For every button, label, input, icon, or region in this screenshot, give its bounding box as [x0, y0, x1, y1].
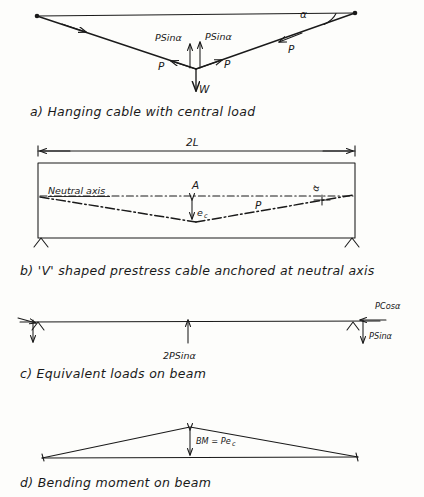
tension-left-label: P — [158, 60, 165, 72]
span-dimension-label: 2L — [186, 136, 199, 148]
bm-value-subscript: c — [232, 440, 236, 448]
figure-d-bending-moment: BM = Pe c d) Bending moment on beam — [20, 427, 358, 490]
engineering-sketch: PSinα PSinα P P P W α a) Hanging cable w… — [0, 0, 424, 497]
prestress-cable-right — [196, 195, 353, 222]
central-load-label: W — [199, 83, 210, 95]
point-a-label: A — [191, 179, 199, 191]
neutral-axis-label: Neutral axis — [48, 185, 105, 196]
vertical-right-label: PSinα — [369, 331, 393, 341]
psin-right-label: PSinα — [205, 31, 232, 42]
caption-a: a) Hanging cable with central load — [30, 104, 255, 119]
caption-b: b) 'V' shaped prestress cable anchored a… — [20, 263, 375, 278]
cable-force-label: P — [255, 199, 262, 211]
support-right-c — [347, 322, 359, 330]
tension-right-label: P — [224, 58, 231, 70]
bm-baseline — [42, 457, 358, 458]
node-left-force-arrow — [171, 61, 196, 69]
eccentricity-subscript: c — [204, 212, 208, 220]
angle-alpha-label-b: α — [309, 183, 321, 192]
caption-d: d) Bending moment on beam — [20, 475, 211, 490]
cable-left-direction-arrow — [62, 24, 86, 32]
support-right — [345, 238, 359, 247]
central-uplift-label: 2PSinα — [163, 350, 196, 361]
eccentricity-label: e — [197, 207, 203, 218]
support-left-c — [32, 322, 44, 330]
figure-b-v-cable-beam: 2L Neutral axis A e c P α b — [20, 136, 375, 278]
angle-alpha-label-a: α — [300, 8, 307, 20]
beam-line-c — [20, 321, 380, 322]
prestress-cable-left — [40, 197, 196, 222]
tension-side-label: P — [288, 43, 295, 55]
figure-a-hanging-cable: PSinα PSinα P P P W α a) Hanging cable w… — [30, 8, 357, 119]
drawing-sheet: PSinα PSinα P P P W α a) Hanging cable w… — [0, 0, 424, 497]
chord-line — [37, 13, 355, 16]
caption-c: c) Equivalent loads on beam — [20, 366, 206, 381]
bm-value-label: BM = Pe — [196, 436, 231, 446]
horizontal-right-label: PCosα — [375, 301, 401, 311]
support-left — [34, 238, 48, 247]
tension-right-arrow — [279, 33, 302, 42]
beam-outline — [38, 163, 355, 238]
figure-c-equivalent-loads: 2PSinα PCosα PSinα c) Equivalent loads o… — [18, 301, 401, 381]
psin-left-label: PSinα — [155, 32, 182, 43]
